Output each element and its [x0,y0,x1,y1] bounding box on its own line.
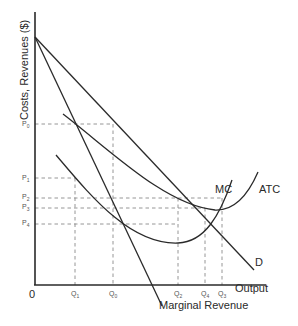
quantity-tick-q2: Q2 [174,290,182,299]
x-axis-label: Output [235,282,268,294]
price-tick-p2: P2 [22,193,30,202]
price-tick-labels: P0 P1 P2 P3 P4 [22,120,30,228]
curves [35,37,258,306]
price-tick-p4: P4 [22,219,30,228]
origin-label: 0 [29,288,35,300]
axes [34,12,266,285]
quantity-tick-labels: Q1 Q0 Q2 Q4 Q3 [71,290,226,299]
monopoly-cost-revenue-diagram: Costs, Revenues ($) Output 0 D Marginal … [0,0,298,326]
quantity-tick-q0: Q0 [109,290,117,299]
price-tick-p1: P1 [22,174,30,183]
demand-curve [35,37,254,270]
mc-curve [56,155,232,243]
quantity-tick-q3: Q3 [218,290,226,299]
quantity-tick-q1: Q1 [71,290,79,299]
mc-label: MC [215,183,232,195]
y-axis-label: Costs, Revenues ($) [18,20,30,120]
marginal-revenue-label: Marginal Revenue [159,299,248,311]
quantity-tick-q4: Q4 [201,290,209,299]
atc-label-text: ATC [259,183,280,195]
price-tick-p0: P0 [22,120,30,129]
price-tick-p3: P3 [22,203,30,212]
marginal-revenue-curve [35,37,162,306]
demand-label: D [255,256,263,268]
